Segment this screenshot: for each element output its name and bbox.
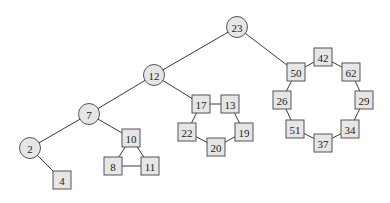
- node-20: 20: [207, 138, 225, 156]
- node-42: 42: [314, 48, 332, 66]
- node-23: 23: [227, 17, 248, 38]
- node-8: 8: [104, 157, 122, 175]
- node-34: 34: [341, 120, 359, 138]
- node-11: 11: [141, 157, 159, 175]
- node-10: 10: [122, 129, 140, 147]
- node-label: 13: [225, 99, 237, 111]
- node-7: 7: [79, 104, 100, 125]
- graph-diagram: 23127241081117132219205042622629513437: [0, 0, 390, 203]
- node-label: 4: [59, 175, 65, 187]
- node-label: 29: [359, 95, 371, 107]
- node-label: 8: [110, 161, 116, 173]
- node-label: 7: [86, 109, 92, 121]
- node-label: 42: [318, 52, 329, 64]
- node-label: 2: [27, 143, 33, 155]
- node-label: 51: [290, 124, 301, 136]
- node-label: 19: [239, 127, 251, 139]
- edge-23-12: [154, 27, 237, 75]
- node-19: 19: [235, 123, 253, 141]
- node-label: 12: [149, 70, 160, 82]
- node-label: 20: [211, 142, 223, 154]
- node-4: 4: [53, 171, 71, 189]
- node-label: 10: [126, 133, 138, 145]
- node-29: 29: [355, 91, 373, 109]
- node-label: 17: [196, 99, 208, 111]
- node-17: 17: [192, 95, 210, 113]
- node-label: 23: [232, 22, 244, 34]
- node-62: 62: [342, 63, 360, 81]
- node-label: 37: [318, 138, 330, 150]
- node-12: 12: [144, 65, 165, 86]
- node-label: 34: [345, 124, 357, 136]
- node-label: 22: [182, 127, 193, 139]
- node-50: 50: [287, 63, 305, 81]
- node-label: 50: [291, 67, 303, 79]
- node-2: 2: [20, 138, 41, 159]
- node-label: 26: [277, 95, 289, 107]
- node-26: 26: [273, 91, 291, 109]
- edge-12-7: [89, 75, 154, 114]
- node-13: 13: [221, 95, 239, 113]
- node-51: 51: [286, 120, 304, 138]
- node-22: 22: [178, 123, 196, 141]
- node-37: 37: [314, 134, 332, 152]
- node-label: 11: [145, 161, 156, 173]
- nodes-layer: 23127241081117132219205042622629513437: [20, 17, 374, 190]
- node-label: 62: [346, 67, 357, 79]
